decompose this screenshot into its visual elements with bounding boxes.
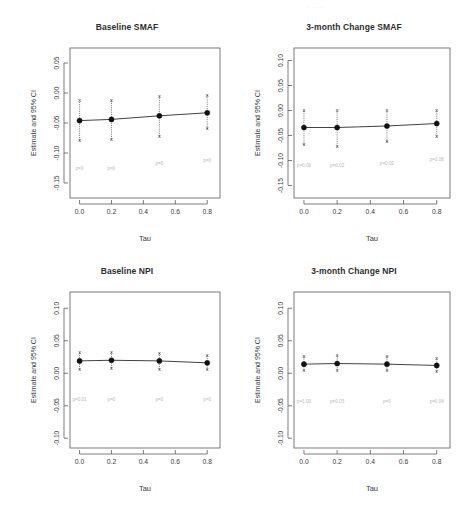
estimate-point xyxy=(77,118,82,123)
y-tick-label: 0.00 xyxy=(277,367,284,380)
estimate-point xyxy=(384,123,389,128)
panel-title: 3-month Change NPI xyxy=(240,266,468,276)
x-tick-label: 0.4 xyxy=(366,458,376,465)
ci-cap-marker: x xyxy=(336,143,339,149)
ci-cap-marker: x xyxy=(303,107,306,113)
p-value-annotation: p=0 xyxy=(155,397,163,402)
estimate-point xyxy=(109,117,114,122)
y-tick-label: 0.00 xyxy=(53,86,60,99)
p-value-annotation: p=0 xyxy=(203,397,211,402)
ci-cap-marker: x xyxy=(158,93,161,99)
p-value-annotation: p=0.02 xyxy=(380,161,395,166)
ci-cap-marker: x xyxy=(386,107,389,113)
estimate-point xyxy=(335,125,340,130)
x-tick-label: 0.8 xyxy=(203,458,213,465)
y-tick-label: 0.10 xyxy=(53,302,60,315)
plot-area: 0.100.050.00-0.05-0.100.00.20.40.60.8xxx… xyxy=(240,266,468,506)
panel-title: Baseline NPI xyxy=(16,266,238,276)
chart-panel-baseline-npi: Baseline NPIEstimate and 95% CITau0.100.… xyxy=(16,266,238,506)
y-tick-label: 0.10 xyxy=(277,302,284,315)
ci-cap-marker: x xyxy=(303,141,306,147)
p-value-annotation: p=0 xyxy=(76,166,84,171)
x-axis-label: Tau xyxy=(294,234,450,243)
ci-cap-marker: x xyxy=(435,133,438,139)
x-tick-label: 0.2 xyxy=(107,208,117,215)
ci-cap-marker: x xyxy=(206,352,209,358)
estimate-point xyxy=(301,362,306,367)
ci-cap-marker: x xyxy=(386,367,389,373)
ci-cap-marker: x xyxy=(435,355,438,361)
x-tick-label: 0.4 xyxy=(366,208,376,215)
ci-cap-marker: x xyxy=(110,349,113,355)
x-tick-label: 0.6 xyxy=(171,458,181,465)
plot-area: 0.050.00-0.05-0.10-0.150.00.20.40.60.8xx… xyxy=(16,22,238,256)
y-tick-label: 0.05 xyxy=(53,56,60,69)
estimate-point xyxy=(205,110,210,115)
ci-cap-marker: x xyxy=(303,367,306,373)
x-tick-label: 0.0 xyxy=(299,458,309,465)
panel-title: 3-month Change SMAF xyxy=(240,22,468,32)
y-tick-label: -0.05 xyxy=(53,398,60,413)
ci-cap-marker: x xyxy=(206,366,209,372)
chart-panel-baseline-smaf: Baseline SMAFEstimate and 95% CITau0.050… xyxy=(16,22,238,256)
estimate-point xyxy=(301,125,306,130)
p-value-annotation: p=0 xyxy=(203,158,211,163)
ci-cap-marker: x xyxy=(158,350,161,356)
p-value-annotation: p=0.04 xyxy=(430,399,445,404)
estimate-line xyxy=(80,360,208,363)
y-tick-label: -0.05 xyxy=(277,398,284,413)
estimate-line xyxy=(304,124,437,128)
estimate-point xyxy=(205,360,210,365)
estimate-point xyxy=(77,358,82,363)
ci-cap-marker: x xyxy=(386,353,389,359)
p-value-annotation: p=0.01 xyxy=(72,397,87,402)
ci-cap-marker: x xyxy=(386,138,389,144)
p-value-annotation: p=0.05 xyxy=(330,399,345,404)
ci-cap-marker: x xyxy=(158,133,161,139)
x-tick-label: 0.4 xyxy=(139,208,149,215)
y-tick-label: -0.05 xyxy=(53,115,60,130)
y-axis-label: Estimate and 95% CI xyxy=(254,48,261,198)
x-tick-label: 0.6 xyxy=(171,208,181,215)
p-value-annotation: p=0 xyxy=(383,399,391,404)
p-value-annotation: p=0.06 xyxy=(430,157,445,162)
y-axis-label: Estimate and 95% CI xyxy=(254,292,261,448)
ci-cap-marker: x xyxy=(110,136,113,142)
x-tick-label: 0.8 xyxy=(432,208,442,215)
x-axis-label: Tau xyxy=(294,484,450,493)
y-tick-label: -0.05 xyxy=(277,128,284,143)
y-tick-label: -0.15 xyxy=(53,175,60,190)
y-tick-label: 0.10 xyxy=(277,54,284,67)
estimate-line xyxy=(80,113,208,121)
y-axis-label: Estimate and 95% CI xyxy=(30,48,37,198)
p-value-annotation: p=1.00 xyxy=(297,399,312,404)
ci-cap-marker: x xyxy=(78,97,81,103)
cropped-header-artifact: . .. ... .... .. .. ... .. ... . .. xyxy=(0,0,473,16)
x-tick-label: 0.6 xyxy=(399,208,409,215)
x-tick-label: 0.2 xyxy=(332,208,342,215)
estimate-point xyxy=(434,363,439,368)
ci-cap-marker: x xyxy=(158,366,161,372)
y-tick-label: -0.15 xyxy=(277,178,284,193)
p-value-annotation: p=0 xyxy=(108,397,116,402)
x-tick-label: 0.8 xyxy=(203,208,213,215)
y-tick-label: -0.10 xyxy=(277,430,284,445)
y-tick-label: 0.05 xyxy=(277,79,284,92)
ci-cap-marker: x xyxy=(336,107,339,113)
ci-cap-marker: x xyxy=(78,137,81,143)
x-tick-label: 0.4 xyxy=(139,458,149,465)
ci-cap-marker: x xyxy=(206,125,209,131)
y-tick-label: -0.10 xyxy=(53,145,60,160)
chart-panel-3month-change-npi: 3-month Change NPIEstimate and 95% CITau… xyxy=(240,266,468,506)
ci-cap-marker: x xyxy=(206,92,209,98)
ci-cap-marker: x xyxy=(435,107,438,113)
quantile-regression-figure: . .. ... .... .. .. ... .. ... . .. Base… xyxy=(0,0,473,513)
y-axis-label: Estimate and 95% CI xyxy=(30,292,37,448)
p-value-annotation: p=0.02 xyxy=(330,163,345,168)
plot-area: 0.100.050.00-0.05-0.100.00.20.40.60.8xxx… xyxy=(16,266,238,506)
ci-cap-marker: x xyxy=(303,353,306,359)
estimate-point xyxy=(157,358,162,363)
p-value-annotation: p=0 xyxy=(155,161,163,166)
x-axis-label: Tau xyxy=(70,484,220,493)
x-tick-label: 0.2 xyxy=(107,458,117,465)
